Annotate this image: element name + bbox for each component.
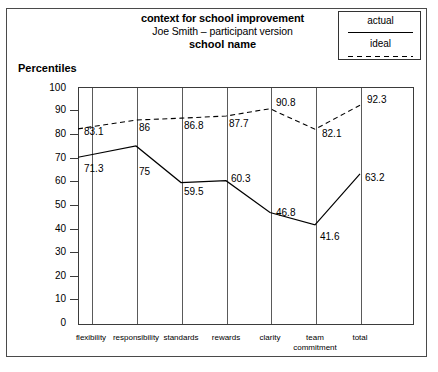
line-series-actual [78,146,360,225]
data-label-actual-responsibility: 75 [139,166,150,177]
data-label-actual-flexibility: 71.3 [84,163,103,174]
ytick-label-80: 80 [40,129,66,139]
data-label-ideal-responsibility: 86 [139,122,150,133]
line-series-ideal [78,105,360,129]
data-label-actual-standards: 59.5 [184,186,203,197]
data-label-actual-rewards: 60.3 [231,173,250,184]
ytick-label-50: 50 [40,200,66,210]
ytick-label-60: 60 [40,176,66,186]
ytick-label-10: 10 [40,294,66,304]
data-label-ideal-rewards: 87.7 [229,118,248,129]
plot-wrapper: 100 90 80 70 60 50 40 30 20 10 0 flexibi… [0,0,438,372]
chart-screenshot: context for school improvement Joe Smith… [0,0,438,372]
data-label-ideal-team-commitment: 82.1 [322,128,341,139]
ytick-label-30: 30 [40,247,66,257]
data-label-ideal-flexibility: 83.1 [84,126,103,137]
ytick-label-40: 40 [40,224,66,234]
ytick-label-0: 0 [40,318,66,328]
data-label-actual-clarity: 46.8 [276,207,295,218]
xtick-label-total: total [340,333,380,343]
ytick-label-70: 70 [40,153,66,163]
ytick-label-90: 90 [40,105,66,115]
ytick-label-20: 20 [40,271,66,281]
data-label-ideal-standards: 86.8 [184,120,203,131]
xtick-label-team: team [288,333,342,343]
data-label-actual-team-commitment: 41.6 [320,231,339,242]
ytick-label-100: 100 [40,83,66,93]
data-label-actual-total: 63.2 [365,172,384,183]
data-label-ideal-total: 92.3 [367,94,386,105]
data-label-ideal-clarity: 90.8 [276,97,295,108]
xtick-label-commitment: commitment [280,343,350,353]
